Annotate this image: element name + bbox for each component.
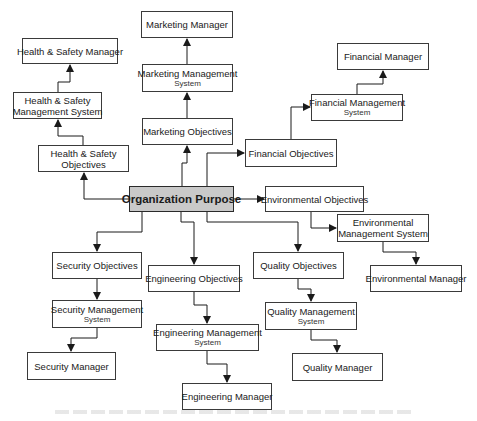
node-label: Objectives <box>61 159 105 170</box>
node-eng-obj[interactable]: Engineering Objectives <box>148 265 240 292</box>
node-fin-obj[interactable]: Financial Objectives <box>245 139 337 167</box>
connector-qual_obj-to-qual_sys <box>298 279 311 301</box>
node-label: Quality Objectives <box>260 260 337 271</box>
node-mkt-obj[interactable]: Marketing Objectives <box>142 118 233 145</box>
node-fin-sys[interactable]: Financial ManagementSystem <box>311 94 403 121</box>
node-label: Environmental Objectives <box>261 194 369 205</box>
node-env-sys[interactable]: EnvironmentalManagement System <box>337 214 429 242</box>
connector-env_sys-to-env_mgr <box>383 242 416 264</box>
node-label: Health & Safety <box>50 148 116 159</box>
node-sec-mgr[interactable]: Security Manager <box>27 352 116 380</box>
connector-qual_sys-to-qual_mgr <box>311 330 337 352</box>
node-qual-sys[interactable]: Quality ManagementSystem <box>265 302 357 330</box>
node-label: Engineering Manager <box>182 391 273 402</box>
node-eng-sys[interactable]: Engineering ManagementSystem <box>156 324 259 351</box>
connector-org-to-sec_obj <box>97 212 142 251</box>
node-label: Marketing Management <box>138 68 238 79</box>
node-label: Marketing Manager <box>146 19 228 30</box>
node-mkt-sys[interactable]: Marketing ManagementSystem <box>142 64 233 92</box>
node-env-mgr[interactable]: Environmental Manager <box>370 265 462 292</box>
node-label: Financial Management <box>309 97 405 108</box>
connector-hs_obj-to-hs_sys <box>58 120 83 145</box>
node-sublabel: System <box>194 338 221 348</box>
node-label: Financial Objectives <box>248 148 333 159</box>
node-eng-mgr[interactable]: Engineering Manager <box>182 383 272 410</box>
connector-sec_sys-to-sec_mgr <box>71 328 97 351</box>
node-env-obj[interactable]: Environmental Objectives <box>265 186 364 212</box>
node-sublabel: System <box>84 315 111 325</box>
connector-org-to-fin_obj <box>207 153 244 186</box>
node-label: Health & Safety <box>24 95 90 106</box>
node-sublabel: System <box>174 79 201 89</box>
connector-org-to-qual_obj <box>207 212 298 251</box>
connector-org-to-eng_obj <box>181 212 194 264</box>
diagram-canvas: Organization PurposeMarketing Objectives… <box>0 0 477 421</box>
node-label: Environmental <box>353 217 414 228</box>
node-sec-obj[interactable]: Security Objectives <box>52 252 142 279</box>
node-label: Security Management <box>51 304 143 315</box>
connector-fin_obj-to-fin_sys <box>291 107 310 139</box>
node-hs-sys[interactable]: Health & SafetyManagement System <box>13 92 102 119</box>
node-label: Management System <box>338 228 428 239</box>
node-label: Financial Manager <box>344 51 422 62</box>
node-label: Security Manager <box>34 361 108 372</box>
node-label: Security Objectives <box>56 260 137 271</box>
node-hs-obj[interactable]: Health & SafetyObjectives <box>38 145 129 172</box>
node-org[interactable]: Organization Purpose <box>129 186 234 212</box>
connector-fin_sys-to-fin_mgr <box>357 71 383 94</box>
node-sublabel: System <box>344 108 371 118</box>
connector-env_obj-to-env_sys <box>311 212 336 228</box>
node-label: Quality Management <box>267 306 355 317</box>
connector-org-to-mkt_obj <box>182 146 187 186</box>
node-hs-mgr[interactable]: Health & Safety Manager <box>22 38 118 64</box>
node-label: Environmental Manager <box>366 273 467 284</box>
node-label: Engineering Objectives <box>145 273 243 284</box>
connector-hs_sys-to-hs_mgr <box>58 65 70 92</box>
node-label: Organization Purpose <box>122 194 242 205</box>
node-fin-mgr[interactable]: Financial Manager <box>337 43 429 70</box>
connector-eng_obj-to-eng_sys <box>194 292 207 323</box>
node-sec-sys[interactable]: Security ManagementSystem <box>52 300 142 328</box>
node-sublabel: System <box>298 317 325 327</box>
node-label: Marketing Objectives <box>143 126 232 137</box>
node-qual-mgr[interactable]: Quality Manager <box>292 353 383 381</box>
connector-eng_sys-to-eng_mgr <box>207 351 227 382</box>
node-label: Health & Safety Manager <box>17 46 123 57</box>
node-label: Management System <box>13 106 103 117</box>
node-label: Quality Manager <box>303 362 373 373</box>
figure-caption-faded <box>55 410 415 414</box>
node-qual-obj[interactable]: Quality Objectives <box>253 252 344 279</box>
node-mkt-mgr[interactable]: Marketing Manager <box>141 11 233 38</box>
node-label: Engineering Management <box>153 327 262 338</box>
